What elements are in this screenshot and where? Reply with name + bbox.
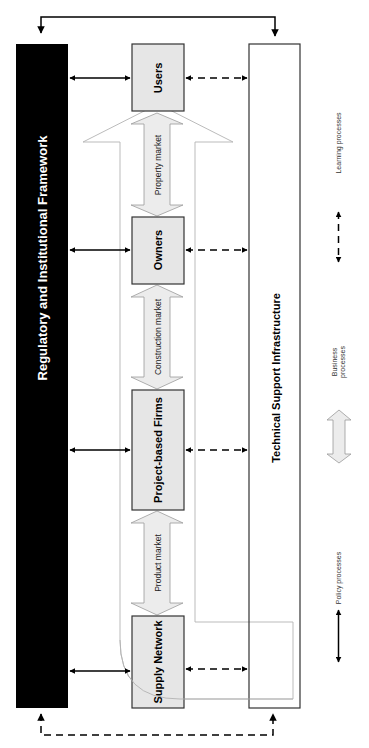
actor-owners[interactable]: Owners (132, 217, 184, 284)
construction-market-label: Construction market (153, 298, 163, 375)
actor-project-based-firms-label: Project-based Firms (152, 397, 164, 503)
learning-flow-big-arrow (83, 104, 293, 699)
legend-policy-label: Policy processes (335, 551, 343, 604)
actor-users[interactable]: Users (132, 44, 184, 111)
construction-industry-system-diagram: Regulatory and Institutional Framework T… (0, 0, 369, 748)
bottom-feedback-connector (41, 714, 273, 735)
legend-business-label-line1: Business (331, 347, 338, 376)
infrastructure-label: Technical Support Infrastructure (270, 293, 282, 463)
construction-market-arrow: Construction market (131, 285, 183, 389)
product-market-label: Product market (153, 534, 163, 592)
actor-users-label: Users (152, 63, 164, 94)
legend-business-hollow-arrow-icon (327, 410, 351, 463)
legend-business-label-line2: processes (339, 346, 347, 378)
actor-supply-network-label: Supply Network (152, 620, 164, 704)
property-market-label: Property market (153, 134, 163, 195)
legend-policy-processes: Policy processes (335, 551, 343, 662)
legend: Learning processes Business processes Po… (327, 112, 351, 662)
policy-connectors (70, 78, 130, 671)
technical-support-infrastructure-box[interactable]: Technical Support Infrastructure (249, 44, 300, 708)
regulatory-framework-label: Regulatory and Institutional Framework (35, 135, 50, 381)
actor-supply-network[interactable]: Supply Network (132, 616, 184, 708)
actor-project-based-firms[interactable]: Project-based Firms (132, 390, 184, 510)
legend-learning-label: Learning processes (335, 112, 343, 174)
product-market-arrow: Product market (131, 511, 183, 615)
regulatory-framework-bar[interactable]: Regulatory and Institutional Framework (16, 44, 68, 708)
legend-learning-processes: Learning processes (335, 112, 343, 262)
actor-owners-label: Owners (152, 230, 164, 270)
top-feedback-connector (41, 17, 275, 36)
property-market-arrow: Property market (131, 113, 183, 216)
legend-business-processes: Business processes (327, 346, 351, 463)
